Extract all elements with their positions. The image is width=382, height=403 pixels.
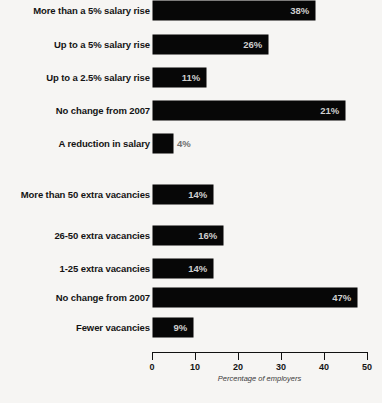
chart-row: More than a 5% salary rise 38% [0, 1, 382, 20]
axis-line [152, 352, 367, 353]
axis-tick-label: 50 [362, 362, 372, 372]
bar: 11% [153, 68, 206, 87]
chart-row: More than 50 extra vacancies 14% [0, 185, 382, 204]
bar-value-label: 11% [182, 68, 200, 87]
category-label: 1-25 extra vacancies [60, 259, 150, 278]
chart-row: 26-50 extra vacancies 16% [0, 226, 382, 245]
bar-value-label: 47% [332, 288, 351, 307]
axis-tick [324, 352, 325, 360]
bar-value-label: 4% [177, 134, 191, 153]
bar-value-label: 9% [173, 318, 187, 337]
bar: 21% [153, 101, 345, 120]
category-label: Up to a 2.5% salary rise [46, 68, 150, 87]
bar-value-label: 14% [188, 185, 207, 204]
bar: 47% [153, 288, 357, 307]
category-label: No change from 2007 [56, 288, 150, 307]
x-axis: 0 10 20 30 40 50 Percentage of employers [0, 352, 382, 403]
bar: 9% [153, 318, 193, 337]
bar: 14% [153, 185, 213, 204]
chart-row: Up to a 2.5% salary rise 11% [0, 68, 382, 87]
bar-value-label: 14% [188, 259, 207, 278]
bar-value-label: 21% [320, 101, 339, 120]
bar-value-label: 38% [290, 1, 309, 20]
category-label: 26-50 extra vacancies [54, 226, 150, 245]
axis-tick [152, 352, 153, 360]
axis-tick-label: 20 [233, 362, 243, 372]
chart-row: Up to a 5% salary rise 26% [0, 35, 382, 54]
bar-value-label: 16% [198, 226, 217, 245]
bar: 26% [153, 35, 268, 54]
bar: 38% [153, 1, 315, 20]
chart-row: A reduction in salary 4% [0, 134, 382, 153]
bar-chart: More than a 5% salary rise 38% Up to a 5… [0, 0, 382, 403]
category-label: Up to a 5% salary rise [54, 35, 150, 54]
chart-row: Fewer vacancies 9% [0, 318, 382, 337]
axis-tick [195, 352, 196, 360]
axis-title: Percentage of employers [152, 374, 367, 383]
bar-value-label: 26% [243, 35, 262, 54]
axis-tick-label: 10 [190, 362, 200, 372]
chart-row: 1-25 extra vacancies 14% [0, 259, 382, 278]
axis-tick [281, 352, 282, 360]
category-label: More than a 5% salary rise [33, 1, 150, 20]
axis-tick-label: 40 [319, 362, 329, 372]
bar: 16% [153, 226, 223, 245]
category-label: No change from 2007 [56, 101, 150, 120]
bar: 14% [153, 259, 213, 278]
category-label: A reduction in salary [58, 134, 150, 153]
axis-tick [238, 352, 239, 360]
bar: 4% [153, 134, 173, 153]
category-label: Fewer vacancies [76, 318, 150, 337]
chart-row: No change from 2007 21% [0, 101, 382, 120]
axis-tick-label: 30 [276, 362, 286, 372]
category-label: More than 50 extra vacancies [21, 185, 150, 204]
axis-tick-label: 0 [149, 362, 154, 372]
axis-tick [367, 352, 368, 360]
chart-row: No change from 2007 47% [0, 288, 382, 307]
